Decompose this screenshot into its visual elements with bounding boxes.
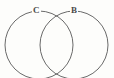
venn-circle-b [40, 11, 108, 78]
venn-circle-c [5, 11, 73, 78]
venn-diagram-canvas [0, 0, 114, 78]
set-label-b: B [70, 6, 78, 15]
set-label-c: C [32, 6, 41, 15]
venn-diagram-figure: C B [0, 0, 114, 78]
